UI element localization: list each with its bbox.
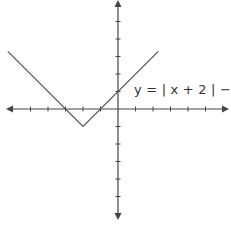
x-axis-left-arrow-icon [6, 106, 13, 113]
equation-label: y = | x + 2 | − 1 [134, 82, 231, 97]
y-axis-top-arrow-icon [115, 0, 122, 7]
axes [6, 0, 229, 220]
x-axis-right-arrow-icon [222, 106, 229, 113]
graph-plot [0, 0, 231, 226]
